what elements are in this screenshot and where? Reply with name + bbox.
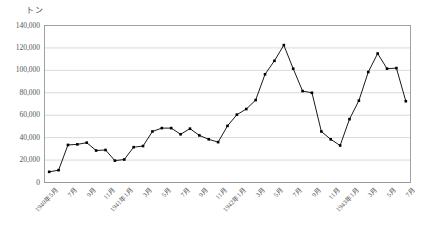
data-point-marker [292,67,295,70]
data-point-marker [142,145,145,148]
data-point-marker [320,130,323,133]
data-point-marker [301,90,304,93]
data-point-marker [283,44,286,47]
data-point-marker [161,127,164,130]
data-point-marker [198,134,201,137]
data-point-marker [76,143,79,146]
data-point-marker [217,141,220,144]
data-point-marker [376,52,379,55]
data-point-marker [67,144,70,147]
data-point-marker [123,158,126,161]
data-point-marker [339,144,342,147]
data-point-marker [95,149,98,152]
data-point-marker [236,113,239,116]
data-point-marker [85,141,88,144]
data-point-marker [179,133,182,136]
data-point-marker [57,169,60,172]
data-point-marker [170,127,173,130]
data-point-marker [151,130,154,133]
data-point-marker [132,146,135,149]
data-point-marker [264,73,267,76]
data-point-marker [348,118,351,121]
data-point-marker [329,138,332,141]
data-point-marker [395,67,398,70]
data-point-marker [367,71,370,74]
data-point-marker [114,159,117,162]
data-point-marker [358,99,361,102]
data-point-marker [245,108,248,111]
data-series-line [49,45,406,172]
chart-container: トン 140,000120,000100,00080,00060,00040,0… [0,0,422,244]
data-point-marker [48,171,51,174]
data-point-marker [386,67,389,70]
data-point-marker [207,138,210,141]
grid-lines [45,48,411,183]
data-point-marker [311,91,314,94]
data-point-marker [254,99,257,102]
data-point-marker [405,100,408,103]
line-chart-plot [0,0,422,244]
plot-area-border [45,26,411,183]
data-point-marker [226,125,229,128]
data-point-markers [48,44,407,173]
data-point-marker [104,149,107,152]
data-point-marker [189,127,192,130]
data-point-marker [273,60,276,63]
